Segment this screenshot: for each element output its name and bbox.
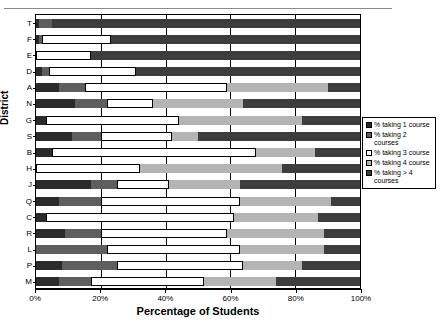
- bar-segment[interactable]: [204, 277, 275, 286]
- bar-segment[interactable]: [101, 132, 172, 141]
- bar-segment[interactable]: [75, 99, 107, 108]
- bar-segment[interactable]: [36, 132, 72, 141]
- bar-segment[interactable]: [36, 261, 62, 270]
- bar-segment[interactable]: [36, 213, 46, 222]
- bar-segment[interactable]: [227, 229, 324, 238]
- bar-row[interactable]: D: [36, 67, 360, 76]
- bar-segment[interactable]: [256, 148, 314, 157]
- bar-segment[interactable]: [153, 99, 244, 108]
- y-tick-label-p: P: [27, 261, 32, 270]
- bar-segment[interactable]: [36, 197, 59, 206]
- bar-row[interactable]: B: [36, 148, 360, 157]
- bar-segment[interactable]: [198, 132, 360, 141]
- bar-segment[interactable]: [172, 132, 198, 141]
- bar-row[interactable]: A: [36, 83, 360, 92]
- bar-segment[interactable]: [240, 180, 360, 189]
- bar-segment[interactable]: [85, 83, 228, 92]
- bar-segment[interactable]: [240, 197, 331, 206]
- bar-segment[interactable]: [324, 229, 360, 238]
- bar-segment[interactable]: [36, 245, 107, 254]
- bar-segment[interactable]: [91, 51, 360, 60]
- bar-row[interactable]: C: [36, 213, 360, 222]
- bar-row[interactable]: E: [36, 51, 360, 60]
- bar-row[interactable]: F: [36, 35, 360, 44]
- bar-segment[interactable]: [62, 261, 117, 270]
- bar-segment[interactable]: [117, 261, 243, 270]
- bar-row[interactable]: S: [36, 132, 360, 141]
- bar-segment[interactable]: [36, 99, 75, 108]
- bar-segment[interactable]: [234, 213, 318, 222]
- legend-item[interactable]: % taking 3 course: [366, 149, 433, 157]
- bar-segment[interactable]: [328, 83, 360, 92]
- y-tick-label-a: A: [27, 83, 32, 92]
- bar-segment[interactable]: [49, 67, 136, 76]
- bar-segment[interactable]: [46, 116, 179, 125]
- legend-item[interactable]: % taking > 4 courses: [366, 169, 433, 185]
- bar-segment[interactable]: [169, 180, 240, 189]
- bar-segment[interactable]: [72, 132, 101, 141]
- bar-segment[interactable]: [36, 51, 91, 60]
- x-tick-mark: [100, 289, 101, 293]
- bar-segment[interactable]: [136, 67, 360, 76]
- bar-segment[interactable]: [240, 245, 324, 254]
- x-tick-label: 60%: [223, 294, 239, 303]
- bar-segment[interactable]: [117, 180, 169, 189]
- y-tick-mark: [33, 185, 36, 186]
- bar-segment[interactable]: [36, 180, 91, 189]
- bar-segment[interactable]: [101, 229, 227, 238]
- bar-segment[interactable]: [36, 277, 59, 286]
- bar-segment[interactable]: [111, 35, 360, 44]
- bar-row[interactable]: G: [36, 116, 360, 125]
- x-tick-mark: [231, 289, 232, 293]
- bar-segment[interactable]: [36, 229, 65, 238]
- bar-segment[interactable]: [91, 180, 117, 189]
- bar-segment[interactable]: [302, 116, 360, 125]
- bar-segment[interactable]: [227, 83, 327, 92]
- bar-segment[interactable]: [52, 148, 256, 157]
- bar-segment[interactable]: [276, 277, 360, 286]
- bar-segment[interactable]: [331, 197, 360, 206]
- bar-segment[interactable]: [302, 261, 360, 270]
- bar-segment[interactable]: [282, 164, 360, 173]
- bar-row[interactable]: H: [36, 164, 360, 173]
- bar-segment[interactable]: [318, 213, 360, 222]
- bar-row[interactable]: R: [36, 229, 360, 238]
- legend-item[interactable]: % taking 2 courses: [366, 131, 433, 147]
- bar-segment[interactable]: [243, 99, 360, 108]
- bar-segment[interactable]: [52, 19, 360, 28]
- bar-row[interactable]: P: [36, 261, 360, 270]
- bar-segment[interactable]: [36, 116, 46, 125]
- bar-segment[interactable]: [324, 245, 360, 254]
- bar-segment[interactable]: [42, 35, 110, 44]
- x-tick-mark: [361, 289, 362, 293]
- bar-segment[interactable]: [36, 83, 59, 92]
- bar-segment[interactable]: [36, 148, 52, 157]
- chart-legend: % taking 1 course% taking 2 courses% tak…: [362, 117, 436, 189]
- bar-row[interactable]: Q: [36, 197, 360, 206]
- bar-segment[interactable]: [140, 164, 283, 173]
- x-tick-label: 40%: [157, 294, 173, 303]
- bar-segment[interactable]: [39, 19, 52, 28]
- bar-row[interactable]: L: [36, 245, 360, 254]
- bar-segment[interactable]: [59, 83, 85, 92]
- bar-segment[interactable]: [91, 277, 204, 286]
- bar-segment[interactable]: [46, 213, 234, 222]
- bar-segment[interactable]: [107, 99, 152, 108]
- legend-item[interactable]: % taking 4 course: [366, 159, 433, 167]
- legend-item[interactable]: % taking 1 course: [366, 121, 433, 129]
- bar-segment[interactable]: [59, 277, 91, 286]
- bar-segment[interactable]: [179, 116, 302, 125]
- bar-segment[interactable]: [36, 164, 140, 173]
- bar-row[interactable]: J: [36, 180, 360, 189]
- y-tick-label-g: G: [26, 116, 32, 125]
- bar-segment[interactable]: [315, 148, 360, 157]
- bar-row[interactable]: T: [36, 19, 360, 28]
- bar-row[interactable]: M: [36, 277, 360, 286]
- bar-segment[interactable]: [107, 245, 240, 254]
- bar-segment[interactable]: [59, 197, 101, 206]
- bar-segment[interactable]: [42, 67, 48, 76]
- bar-segment[interactable]: [65, 229, 101, 238]
- bar-row[interactable]: N: [36, 99, 360, 108]
- bar-segment[interactable]: [101, 197, 240, 206]
- bar-segment[interactable]: [243, 261, 301, 270]
